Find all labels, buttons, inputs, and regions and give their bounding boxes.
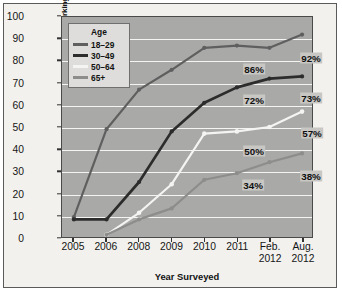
value-callout: 72%: [243, 95, 265, 106]
y-axis-tick-label: 10: [0, 210, 24, 221]
data-point: [169, 182, 174, 187]
x-axis-tick-mark: [269, 238, 270, 242]
data-point: [202, 131, 207, 136]
legend-entry-5064: 50–64: [73, 61, 125, 72]
value-callout: 34%: [242, 179, 264, 190]
line-chart: Percentage of Internet Users Accessing S…: [0, 0, 342, 293]
y-axis-tick-label: 70: [0, 77, 24, 88]
data-point: [235, 171, 239, 175]
data-point: [202, 46, 206, 50]
x-axis-tick-mark: [171, 238, 172, 242]
series-line-65+: [107, 153, 303, 234]
legend-entry-label: 18–29: [91, 40, 114, 50]
value-callout: 38%: [300, 170, 322, 181]
legend-entry-65+: 65+: [73, 72, 125, 83]
data-point: [104, 233, 108, 237]
data-point: [202, 178, 206, 182]
x-axis-title: Year Surveyed: [61, 271, 313, 282]
legend-entry-label: 30–49: [91, 51, 114, 61]
data-point: [104, 217, 108, 221]
data-point: [267, 46, 271, 50]
y-axis-tick-label: 20: [0, 188, 24, 199]
data-point: [137, 180, 141, 184]
value-callout: 57%: [301, 128, 323, 139]
legend-entry-1829: 18–29: [73, 39, 125, 50]
legend-title: Age: [73, 27, 125, 37]
value-callout: 50%: [243, 146, 265, 157]
legend-swatch-line-icon: [73, 43, 88, 45]
value-callout: 92%: [300, 52, 322, 63]
data-point: [170, 206, 174, 210]
legend-swatch-line-icon: [73, 65, 88, 67]
data-point: [235, 44, 239, 48]
data-point: [300, 109, 305, 114]
legend: Age 18–2930–4950–6465+: [68, 23, 130, 88]
x-axis-tick-mark: [204, 238, 205, 242]
series-line-5064: [107, 112, 303, 235]
data-point: [137, 88, 141, 92]
y-axis-tick-label: 0: [0, 233, 24, 244]
y-axis-tick-label: 100: [0, 11, 24, 22]
data-point: [235, 129, 240, 134]
y-axis-tick-label: 30: [0, 166, 24, 177]
data-point: [137, 217, 141, 221]
legend-swatch-line-icon: [73, 76, 88, 78]
y-axis-tick-label: 40: [0, 144, 24, 155]
x-axis-tick-mark: [302, 238, 303, 242]
y-axis-tick-label: 90: [0, 33, 24, 44]
value-callout: 86%: [243, 64, 265, 75]
data-point: [104, 127, 108, 131]
legend-entry-label: 65+: [91, 73, 105, 83]
value-callout: 73%: [300, 92, 322, 103]
x-axis-tick-mark: [138, 238, 139, 242]
data-point: [267, 77, 271, 81]
data-point: [235, 85, 239, 89]
y-axis-tick-label: 60: [0, 99, 24, 110]
series-line-3049: [74, 76, 302, 219]
data-point: [202, 101, 206, 105]
x-axis-tick-mark: [237, 238, 238, 242]
data-point: [300, 33, 304, 37]
x-axis-tick-mark: [105, 238, 106, 242]
data-point: [137, 211, 142, 216]
data-point: [267, 160, 271, 164]
x-axis-tick-label: Aug.2012: [281, 241, 325, 264]
data-point: [72, 217, 76, 221]
legend-entries: 18–2930–4950–6465+: [73, 39, 125, 83]
legend-entry-label: 50–64: [91, 62, 114, 72]
data-point: [300, 74, 304, 78]
data-point: [300, 151, 304, 155]
data-point: [267, 125, 272, 130]
y-axis-tick-label: 80: [0, 55, 24, 66]
legend-entry-3049: 30–49: [73, 50, 125, 61]
y-axis-tick-label: 50: [0, 122, 24, 133]
x-axis-tick-mark: [72, 238, 73, 242]
data-point: [170, 129, 174, 133]
data-point: [170, 68, 174, 72]
legend-swatch-line-icon: [73, 54, 88, 57]
